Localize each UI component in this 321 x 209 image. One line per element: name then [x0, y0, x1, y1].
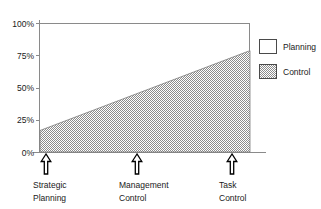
- up-arrow-icon-strategic-planning: [41, 154, 51, 174]
- category-label-strategic-line1: Strategic: [33, 180, 67, 190]
- up-arrow-icon-task-control: [227, 154, 237, 174]
- legend: Planning Control: [260, 40, 317, 79]
- category-label-strategic-line2: Planning: [33, 193, 66, 203]
- up-arrow-icon-management-control: [132, 154, 142, 174]
- category-label-management-line1: Management: [119, 180, 169, 190]
- area-chart: 100% 75% 50% 25% 0% Strategic Planning M…: [0, 0, 321, 209]
- legend-swatch-planning: [260, 40, 277, 54]
- y-axis-label-25: 25%: [17, 115, 34, 125]
- y-axis-label-100: 100%: [12, 19, 34, 29]
- y-axis-labels: 100% 75% 50% 25% 0%: [12, 19, 34, 158]
- chart-page: 100% 75% 50% 25% 0% Strategic Planning M…: [0, 0, 321, 209]
- annotation-markers: [41, 154, 237, 174]
- category-label-management-line2: Control: [119, 193, 147, 203]
- legend-label-control: Control: [283, 67, 311, 77]
- category-label-task-line1: Task: [219, 180, 237, 190]
- control-area-series: [40, 51, 250, 152]
- y-axis-label-50: 50%: [17, 83, 34, 93]
- legend-label-planning: Planning: [283, 42, 316, 52]
- category-label-task-line2: Control: [219, 193, 247, 203]
- category-labels: Strategic Planning Management Control Ta…: [33, 180, 247, 203]
- legend-swatch-control: [260, 65, 277, 79]
- y-axis-label-0: 0%: [22, 148, 35, 158]
- y-axis-label-75: 75%: [17, 51, 34, 61]
